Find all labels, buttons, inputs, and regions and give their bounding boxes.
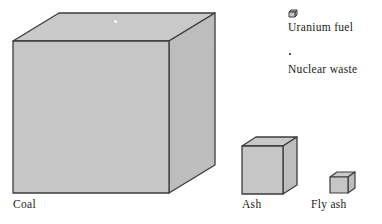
fly-ash-cube bbox=[328, 170, 358, 196]
ash-cube-front-face bbox=[242, 146, 283, 194]
fly-ash-label: Fly ash bbox=[311, 199, 347, 211]
ash-label: Ash bbox=[242, 199, 261, 211]
coal-cube-side-face bbox=[169, 13, 215, 193]
coal-label: Coal bbox=[13, 199, 36, 211]
ash-cube bbox=[240, 134, 300, 196]
coal-cube bbox=[11, 10, 217, 196]
fly-ash-cube-front-face bbox=[330, 177, 348, 193]
legend-label-nuclear-waste: Nuclear waste bbox=[288, 64, 357, 76]
legend-label-uranium-fuel: Uranium fuel bbox=[288, 22, 353, 34]
nuclear-waste-dot-icon bbox=[289, 53, 291, 55]
volume-comparison-figure: Coal Ash Fly ash bbox=[0, 0, 382, 224]
ash-cube-side-face bbox=[283, 137, 297, 194]
coal-cube-front-face bbox=[13, 41, 169, 193]
uranium-fuel-cube-icon bbox=[288, 8, 300, 19]
uranium-fuel-speck bbox=[114, 20, 117, 23]
